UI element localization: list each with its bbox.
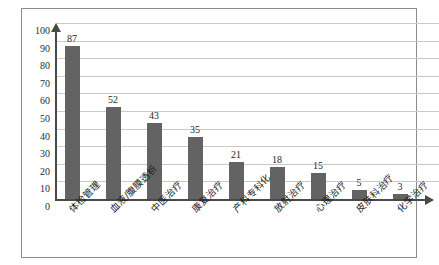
y-axis-tick-label: 60 bbox=[22, 96, 50, 106]
bar-value-label: 35 bbox=[178, 124, 212, 135]
bar bbox=[65, 46, 80, 199]
y-axis-tick-label: 80 bbox=[22, 61, 50, 71]
bar-value-label: 15 bbox=[301, 160, 335, 171]
bar-value-label: 87 bbox=[55, 33, 89, 44]
bar bbox=[188, 137, 203, 199]
y-axis-tick-label: 40 bbox=[22, 132, 50, 142]
y-axis-tick-label: 10 bbox=[22, 184, 50, 194]
y-axis-tick-label: 100 bbox=[22, 26, 50, 36]
y-axis-tick-label: 30 bbox=[22, 149, 50, 159]
y-axis-tick-label: 90 bbox=[22, 44, 50, 54]
bar-value-label: 52 bbox=[96, 94, 130, 105]
y-axis-tick-label: 70 bbox=[22, 79, 50, 89]
y-axis-tick-label: 50 bbox=[22, 114, 50, 124]
chart-container: 1009080706050403020100 8752433521181553 … bbox=[21, 8, 417, 258]
bar-value-label: 21 bbox=[219, 149, 253, 160]
x-axis-arrow-icon bbox=[425, 195, 434, 205]
y-axis-labels: 1009080706050403020100 bbox=[22, 17, 52, 265]
bar-value-label: 18 bbox=[260, 154, 294, 165]
gridline bbox=[56, 58, 439, 59]
gridline bbox=[56, 76, 439, 77]
bar-value-label: 43 bbox=[137, 110, 171, 121]
bar bbox=[106, 107, 121, 199]
y-axis-tick-label: 0 bbox=[22, 202, 50, 212]
gridline bbox=[56, 41, 439, 42]
gridline bbox=[56, 23, 439, 24]
y-axis-tick-label: 20 bbox=[22, 167, 50, 177]
y-axis-line bbox=[55, 31, 57, 201]
y-axis-arrow-icon bbox=[51, 23, 61, 32]
